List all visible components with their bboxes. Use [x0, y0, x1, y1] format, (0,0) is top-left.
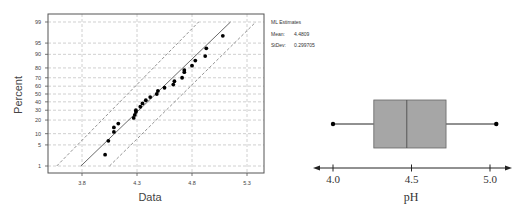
y-tick-label: 80 [35, 65, 41, 71]
max-point [494, 122, 498, 126]
data-point [112, 130, 116, 134]
y-tick-label: 40 [35, 99, 41, 105]
box-plot-axis: 4.04.55.0 [313, 165, 512, 186]
y-axis-ticks: 151020304050607080909599 [35, 19, 48, 169]
x-tick-label: 4.8 [188, 180, 196, 186]
box-plot-tick-label: 4.0 [326, 173, 340, 185]
y-tick-label: 10 [35, 131, 41, 137]
data-points [103, 34, 225, 157]
legend-title: ML Estimates [271, 19, 302, 25]
x-tick-label: 3.8 [78, 180, 86, 186]
data-point [116, 122, 120, 126]
y-axis-label: Percent [12, 76, 24, 114]
x-tick-label: 4.3 [133, 180, 141, 186]
data-point [171, 83, 175, 87]
y-tick-label: 1 [38, 163, 41, 169]
box-plot-x-label: pH [404, 190, 419, 204]
upper-ci-line [57, 22, 199, 166]
legend-mean-value: 4.4809 [294, 31, 310, 37]
data-point [156, 89, 160, 93]
data-point [203, 54, 207, 58]
ml-estimates-legend: ML Estimates Mean: 4.4809 StDev: 0.29970… [271, 19, 315, 48]
data-point [173, 79, 177, 83]
x-tick-label: 5.3 [243, 180, 251, 186]
data-point [221, 34, 225, 38]
legend-mean-label: Mean: [271, 31, 285, 37]
y-tick-label: 95 [35, 40, 41, 46]
box-plot-tick-label: 4.5 [405, 173, 419, 185]
min-point [331, 122, 335, 126]
box-plot: 4.04.55.0 pH [313, 100, 512, 204]
y-tick-label: 90 [35, 51, 41, 57]
right-arrow-icon [505, 166, 512, 171]
x-axis-ticks: 3.84.34.85.3 [78, 173, 251, 186]
y-tick-label: 50 [35, 91, 41, 97]
data-point [190, 64, 194, 68]
probability-plot: 151020304050607080909599 3.84.34.85.3 Da… [12, 14, 264, 203]
data-point [141, 102, 145, 106]
data-point [112, 126, 116, 130]
y-tick-label: 20 [35, 117, 41, 123]
x-axis-label: Data [138, 191, 162, 203]
data-point [148, 95, 152, 99]
chart-canvas: 151020304050607080909599 3.84.34.85.3 Da… [0, 0, 524, 214]
data-point [193, 59, 197, 63]
legend-stdev-label: StDev: [271, 42, 286, 48]
y-tick-label: 99 [35, 19, 41, 25]
box-plot-tick-label: 5.0 [483, 173, 497, 185]
data-point [180, 76, 184, 80]
data-point [204, 46, 208, 50]
y-tick-label: 60 [35, 83, 41, 89]
left-arrow-icon [313, 166, 320, 171]
data-point [144, 98, 148, 102]
legend-stdev-value: 0.299705 [294, 42, 315, 48]
chart-svg: 151020304050607080909599 3.84.34.85.3 Da… [0, 0, 524, 214]
data-point [103, 153, 107, 157]
data-point [134, 108, 138, 112]
y-tick-label: 5 [38, 142, 41, 148]
data-point [182, 68, 186, 72]
y-tick-label: 70 [35, 75, 41, 81]
iqr-box [374, 100, 446, 148]
box-plot-body [331, 100, 499, 148]
data-point [138, 105, 142, 109]
data-point [163, 86, 167, 90]
data-point [107, 139, 111, 143]
y-tick-label: 30 [35, 107, 41, 113]
